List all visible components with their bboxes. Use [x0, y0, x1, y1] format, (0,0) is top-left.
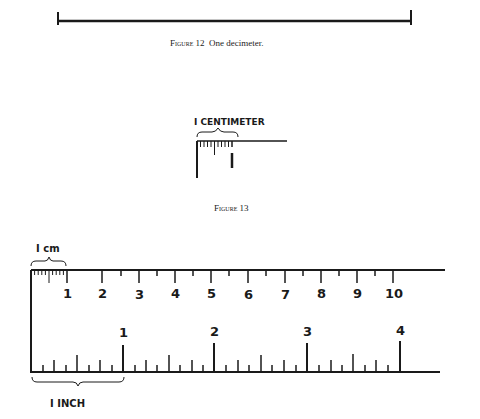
inch-label-2: 2: [210, 324, 219, 339]
cm-label-10: 10: [385, 286, 403, 301]
cm-label-8: 8: [317, 286, 326, 301]
cm-label-5: 5: [207, 286, 216, 301]
inch-label-3: 3: [303, 324, 312, 339]
cm-label-3: 3: [135, 287, 144, 302]
cm-label-1: 1: [63, 286, 72, 301]
cm-label-7: 7: [281, 287, 290, 302]
cm-label-6: 6: [244, 287, 253, 302]
ruler-diagram: [0, 0, 480, 419]
cm-label-2: 2: [98, 286, 107, 301]
inch-label-1: 1: [119, 325, 128, 340]
cm-label-4: 4: [171, 286, 180, 301]
cm-label-9: 9: [353, 286, 362, 301]
inch-label-4: 4: [396, 323, 405, 338]
